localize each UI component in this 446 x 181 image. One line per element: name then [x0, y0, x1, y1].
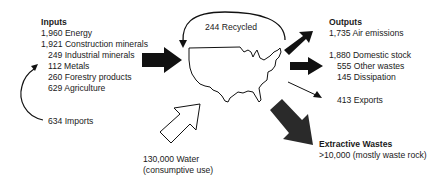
extractive-wastes-value: >10,000 (mostly waste rock): [319, 150, 427, 161]
extractive-wastes-arrow: [270, 99, 313, 145]
us-map-outline: [189, 47, 281, 102]
input-agriculture: 629 Agriculture: [48, 83, 105, 94]
input-forestry-products: 260 Forestry products: [48, 72, 132, 83]
inputs-arrow: [142, 47, 182, 73]
domestic-stock-arrow: [290, 57, 323, 75]
water-label: 130,000 Water: [143, 154, 199, 165]
exports-arrow: [288, 82, 322, 98]
output-other-wastes: 555 Other wastes: [337, 61, 404, 72]
water-arrow: [160, 104, 200, 143]
input-industrial-minerals: 249 Industrial minerals: [48, 50, 134, 61]
air-emissions-arrow: [284, 31, 313, 55]
inputs-heading: Inputs: [41, 17, 67, 28]
output-dissipation: 145 Dissipation: [337, 72, 396, 83]
output-exports: 413 Exports: [337, 95, 383, 106]
input-construction-minerals: 1,921 Construction minerals: [41, 39, 148, 50]
input-metals: 112 Metals: [48, 61, 89, 72]
imports-arrow: [21, 64, 43, 120]
input-energy: 1,960 Energy: [41, 28, 92, 39]
water-sublabel: (consumptive use): [143, 165, 213, 176]
extractive-wastes-heading: Extractive Wastes: [319, 139, 392, 150]
output-air-emissions: 1,735 Air emissions: [329, 28, 404, 39]
recycled-label: 244 Recycled: [205, 22, 257, 33]
outputs-heading: Outputs: [329, 17, 362, 28]
output-domestic-stock: 1,880 Domestic stock: [329, 50, 411, 61]
imports-label: 634 Imports: [48, 116, 93, 127]
